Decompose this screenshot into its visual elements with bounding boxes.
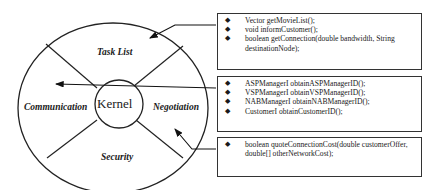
communication-methods-box: ◆ASPManagerI obtainASPManagerID(); ◆VSPM… [217, 76, 422, 132]
bullet-icon: ◆ [225, 88, 230, 97]
kernel-label: Kernel [97, 96, 132, 112]
bullet-icon: ◆ [225, 79, 230, 88]
bullet-icon: ◆ [225, 107, 230, 116]
bullet-icon: ◆ [225, 34, 230, 43]
arrow-task-list [150, 25, 216, 38]
method-item: ◆boolean getConnection(double bandwidth,… [224, 34, 417, 52]
arrow-negotiation [175, 129, 216, 149]
method-item: ◆CustomerI obtainCustomerID(); [224, 107, 417, 116]
bullet-icon: ◆ [225, 140, 230, 149]
segment-communication-label: Communication [24, 102, 87, 112]
method-item: ◆Vector getMovieList(); [224, 16, 417, 25]
method-item: ◆boolean quoteConnectionCost(double cust… [224, 140, 417, 158]
bullet-icon: ◆ [225, 97, 230, 106]
method-item: ◆ASPManagerI obtainASPManagerID(); [224, 79, 417, 88]
task-list-methods-box: ◆Vector getMovieList(); ◆void informCust… [217, 13, 422, 70]
negotiation-methods-box: ◆boolean quoteConnectionCost(double cust… [217, 137, 422, 177]
segment-negotiation-label: Negotiation [153, 102, 199, 112]
segment-security-label: Security [101, 152, 133, 162]
method-item: ◆VSPManagerI obtainVSPManagerID(); [224, 88, 417, 97]
segment-task-list-label: Task List [97, 47, 132, 57]
bullet-icon: ◆ [225, 16, 230, 25]
bullet-icon: ◆ [225, 25, 230, 34]
method-item: ◆void informCustomer(); [224, 25, 417, 34]
method-item: ◆NABManagerI obtainNABManagerID(); [224, 97, 417, 106]
